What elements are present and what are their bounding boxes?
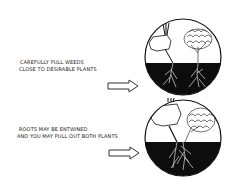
right-arrow-icon <box>107 79 139 93</box>
step-1-caption: Carefully pull weeds close to desirable … <box>19 59 119 73</box>
step-2-caption-line-2: and you may pull out both plants <box>17 133 132 140</box>
step-2-illustration <box>143 98 223 178</box>
step-1-caption-line-2: close to desirable plants <box>19 66 119 73</box>
right-arrow-icon <box>108 146 140 160</box>
step-2-caption-line-1: Roots may be entwined <box>17 126 132 133</box>
step-2-caption: Roots may be entwined and you may pull o… <box>17 126 132 140</box>
step-1-illustration <box>143 17 223 97</box>
step-1-caption-line-1: Carefully pull weeds <box>19 59 119 66</box>
